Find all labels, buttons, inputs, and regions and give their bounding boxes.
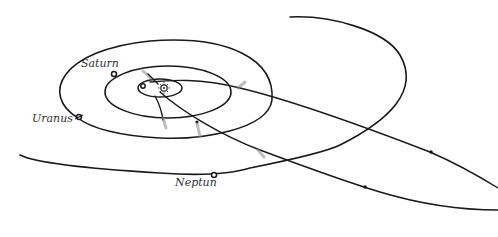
neptune-label: Neptun — [174, 176, 217, 189]
uranus-label: Uranus — [32, 112, 73, 125]
jupiter-planet-icon — [141, 84, 145, 88]
comet-tail — [143, 71, 153, 80]
uranus-planet-icon — [75, 115, 83, 120]
comet-tail — [238, 82, 245, 88]
comet-trajectory-short — [155, 96, 163, 120]
comet-marker — [363, 185, 367, 189]
comet-trajectory-lower — [160, 92, 498, 210]
comet-trajectory-upper — [150, 80, 498, 188]
neptune-orbit — [20, 17, 406, 175]
comet-tail — [197, 124, 200, 136]
comet-marker — [429, 150, 433, 154]
saturn-label: Saturn — [81, 57, 119, 70]
comet-tail — [163, 118, 166, 128]
solar-system-orbit-diagram: Saturn Uranus Neptun — [0, 0, 498, 237]
saturn-planet-icon — [112, 72, 117, 77]
